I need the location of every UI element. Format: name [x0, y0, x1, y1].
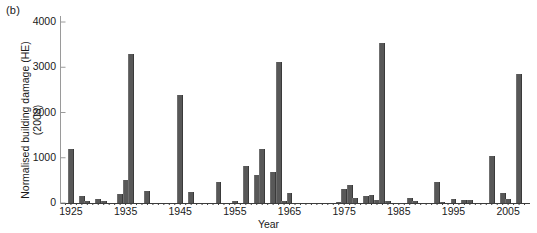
y-tick-label: 2000	[22, 106, 56, 118]
bar	[84, 201, 90, 203]
bar	[505, 199, 511, 203]
figure-panel-b: (b) Normalised building damage (HE) (200…	[0, 0, 537, 233]
x-axis-label: Year	[0, 218, 537, 230]
y-tick-label: 1000	[22, 151, 56, 163]
bar	[516, 74, 522, 203]
x-tick-label: 1965	[270, 205, 310, 217]
y-tick-label: 3000	[22, 60, 56, 72]
bar	[467, 200, 473, 203]
bar	[68, 149, 74, 203]
bar	[352, 198, 358, 203]
x-tick-label: 1955	[215, 205, 255, 217]
x-tick-label: 1925	[51, 205, 91, 217]
bar	[451, 199, 457, 203]
x-tick-label: 1935	[106, 205, 146, 217]
bar	[216, 182, 222, 203]
bar	[128, 54, 134, 203]
bar	[287, 193, 293, 203]
bar	[243, 166, 249, 203]
x-tick-label: 2005	[488, 205, 528, 217]
panel-label: (b)	[6, 4, 20, 16]
bar	[101, 201, 107, 203]
bar-series	[60, 16, 530, 205]
bar	[440, 202, 446, 204]
y-axis-tick-labels: 01000200030004000	[20, 16, 56, 205]
x-tick-label: 1975	[324, 205, 364, 217]
bar	[232, 201, 238, 203]
bar	[412, 201, 418, 203]
x-tick-label: 1985	[379, 205, 419, 217]
bar	[276, 62, 282, 203]
bar	[144, 191, 150, 203]
bar	[177, 95, 183, 203]
bar	[259, 149, 265, 203]
bar	[434, 182, 440, 203]
bar	[385, 201, 391, 203]
x-tick-label: 1995	[433, 205, 473, 217]
bar	[489, 156, 495, 203]
y-tick-label: 4000	[22, 15, 56, 27]
x-tick-label: 1945	[160, 205, 200, 217]
plot-area	[60, 16, 530, 205]
bar	[379, 43, 385, 203]
bar	[188, 192, 194, 203]
